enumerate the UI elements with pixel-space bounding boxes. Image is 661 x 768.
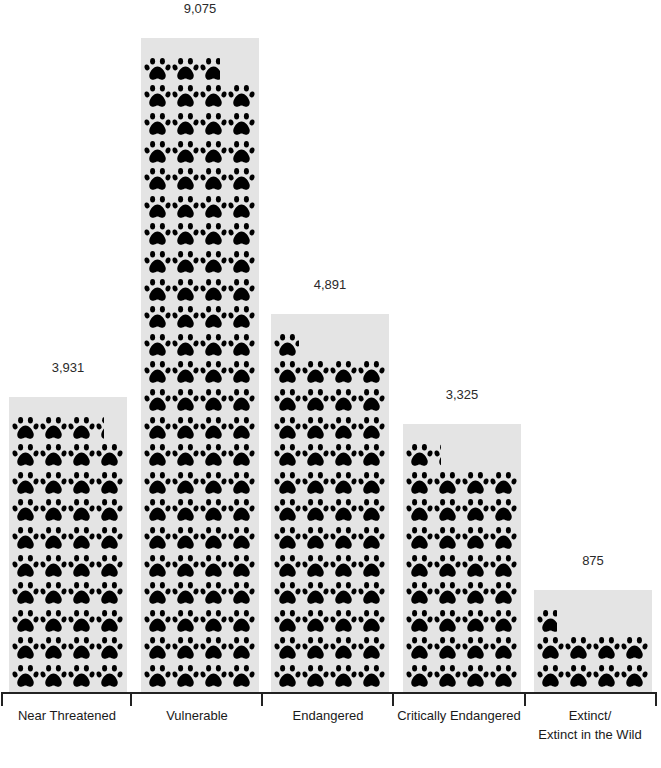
paw-print-icon <box>228 388 255 413</box>
paw-print-icon <box>228 609 255 634</box>
paw-print-icon <box>274 609 301 634</box>
paw-print-icon <box>302 360 329 385</box>
paw-print-icon <box>12 664 39 689</box>
paw-print-icon <box>228 167 255 192</box>
paw-print-icon <box>12 636 39 661</box>
paw-print-icon <box>490 554 517 579</box>
paw-print-icon <box>274 416 301 441</box>
paw-print-icon <box>172 333 199 358</box>
paw-print-icon <box>406 581 433 606</box>
paw-print-icon <box>12 581 39 606</box>
paw-print-icon <box>144 498 171 523</box>
paw-print-icon <box>200 471 227 496</box>
paw-print-icon <box>68 443 95 468</box>
paw-print-icon <box>406 498 433 523</box>
category-label-critically-endangered: Critically Endangered <box>394 706 524 725</box>
paw-print-icon <box>462 498 489 523</box>
category-label-extinct: Extinct/ Extinct in the Wild <box>525 706 655 744</box>
bar-critically-endangered <box>403 424 521 692</box>
paw-print-icon <box>40 498 67 523</box>
paw-print-icon <box>565 636 592 661</box>
paw-print-icon <box>330 636 357 661</box>
paw-print-icon <box>330 526 357 551</box>
paw-print-icon <box>302 636 329 661</box>
paw-grid <box>141 38 259 692</box>
paw-print-icon <box>462 554 489 579</box>
paw-print-icon <box>172 554 199 579</box>
paw-print-icon <box>330 443 357 468</box>
paw-print-icon <box>358 443 385 468</box>
paw-print-icon <box>68 471 95 496</box>
paw-print-icon <box>200 195 227 220</box>
paw-print-icon <box>406 443 433 468</box>
paw-print-icon <box>200 581 227 606</box>
paw-print-icon <box>302 554 329 579</box>
paw-print-icon <box>144 416 171 441</box>
paw-print-icon <box>200 140 227 165</box>
paw-print-icon <box>200 167 227 192</box>
paw-print-icon <box>144 305 171 330</box>
paw-print-icon <box>228 360 255 385</box>
paw-print-icon <box>200 664 227 689</box>
paw-print-icon <box>228 526 255 551</box>
paw-print-icon <box>40 636 67 661</box>
paw-print-icon <box>144 250 171 275</box>
paw-print-icon <box>302 609 329 634</box>
paw-print-icon <box>96 664 123 689</box>
paw-print-icon <box>172 609 199 634</box>
paw-print-icon <box>96 498 123 523</box>
paw-print-icon <box>200 554 227 579</box>
paw-print-icon <box>358 609 385 634</box>
paw-print-icon <box>358 471 385 496</box>
paw-print-icon <box>490 664 517 689</box>
paw-print-icon <box>302 581 329 606</box>
paw-print-icon <box>200 443 227 468</box>
paw-print-icon <box>96 609 123 634</box>
bar-endangered <box>271 314 389 692</box>
category-label-endangered: Endangered <box>263 706 393 725</box>
paw-print-icon <box>434 526 461 551</box>
paw-print-icon <box>144 360 171 385</box>
axis-tick <box>392 692 394 706</box>
paw-print-icon <box>68 526 95 551</box>
paw-print-icon <box>434 471 461 496</box>
paw-print-icon <box>434 498 461 523</box>
paw-print-icon <box>40 471 67 496</box>
category-label-extinct-line1: Extinct/ <box>525 706 655 725</box>
paw-print-icon <box>274 636 301 661</box>
paw-print-icon <box>12 416 39 441</box>
category-label-near-threatened: Near Threatened <box>2 706 132 725</box>
paw-print-icon <box>228 333 255 358</box>
paw-print-icon <box>144 581 171 606</box>
paw-print-icon <box>144 526 171 551</box>
paw-print-icon <box>537 636 564 661</box>
paw-print-icon <box>228 443 255 468</box>
paw-print-icon <box>12 526 39 551</box>
paw-print-icon <box>406 609 433 634</box>
paw-print-icon <box>200 250 227 275</box>
paw-print-icon <box>200 333 227 358</box>
paw-print-icon <box>228 222 255 247</box>
paw-print-icon <box>144 195 171 220</box>
paw-print-icon <box>274 360 301 385</box>
paw-print-icon <box>228 278 255 303</box>
paw-print-icon <box>172 195 199 220</box>
paw-print-icon <box>68 416 95 441</box>
paw-print-icon <box>274 526 301 551</box>
paw-print-icon <box>462 609 489 634</box>
paw-print-icon <box>565 664 592 689</box>
paw-print-icon <box>68 581 95 606</box>
category-label-vulnerable: Vulnerable <box>132 706 262 725</box>
paw-print-icon <box>302 388 329 413</box>
axis-tick <box>261 692 263 706</box>
paw-print-icon <box>358 498 385 523</box>
paw-print-icon <box>144 112 171 137</box>
paw-print-icon <box>144 471 171 496</box>
paw-print-icon <box>40 443 67 468</box>
paw-print-icon <box>358 636 385 661</box>
paw-print-icon <box>96 636 123 661</box>
paw-print-icon <box>274 581 301 606</box>
paw-print-icon <box>68 609 95 634</box>
bar-vulnerable <box>141 38 259 692</box>
paw-print-icon <box>200 112 227 137</box>
